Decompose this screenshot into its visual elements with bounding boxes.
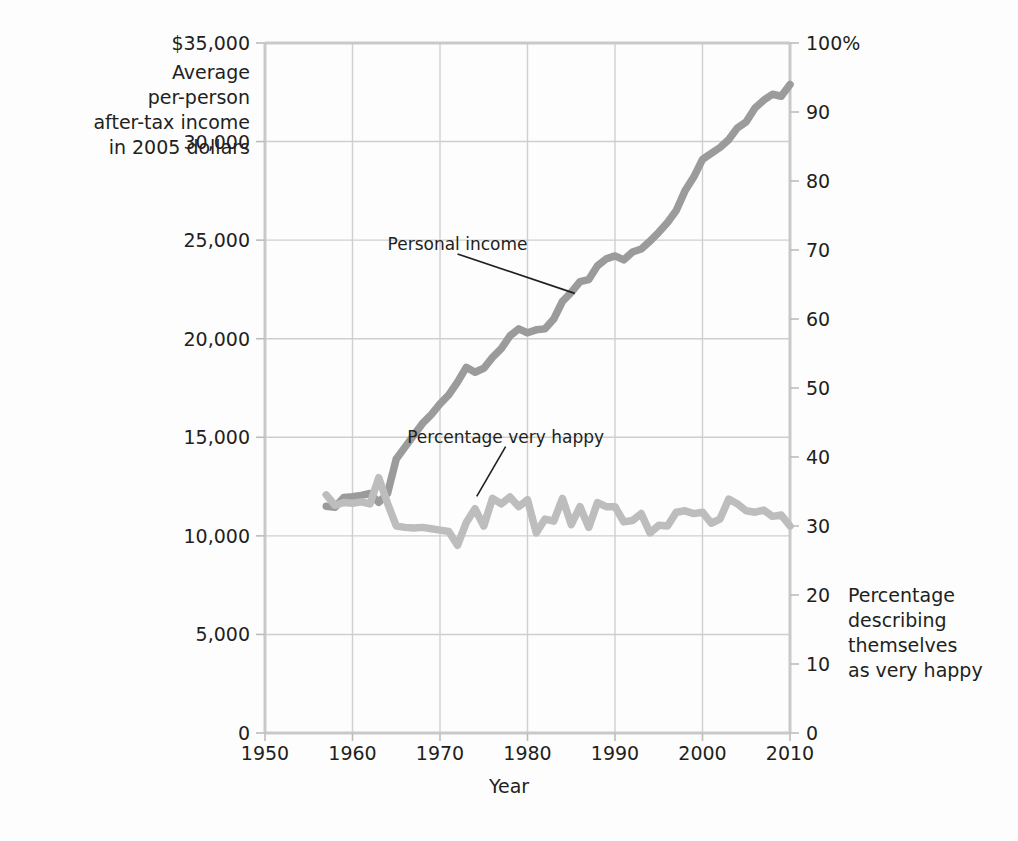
y-right-tick-label: 10 <box>806 653 896 675</box>
annotation-leader-line <box>458 254 575 293</box>
y-right-tick-label: 20 <box>806 584 896 606</box>
x-tick-label: 1980 <box>503 742 551 764</box>
y-left-tick-label: 5,000 <box>150 623 250 645</box>
y-right-tick-label: 0 <box>806 722 896 744</box>
x-axis-title: Year <box>0 775 1018 797</box>
y-right-tick-label: 30 <box>806 515 896 537</box>
annotation-leader-line <box>477 447 506 497</box>
x-tick-label: 1970 <box>416 742 464 764</box>
x-tick-label: 1950 <box>241 742 289 764</box>
y-left-tick-label: $35,000 <box>150 32 250 54</box>
y-right-tick-label: 50 <box>806 377 896 399</box>
y-left-tick-label: 0 <box>150 722 250 744</box>
series-annotation-label: Personal income <box>388 234 528 254</box>
y-right-tick-label: 40 <box>806 446 896 468</box>
y-right-tick-label: 60 <box>806 308 896 330</box>
y-left-tick-label: 30,000 <box>150 131 250 153</box>
y-right-tick-label: 80 <box>806 170 896 192</box>
y-left-tick-label: 25,000 <box>150 229 250 251</box>
x-tick-label: 2010 <box>766 742 814 764</box>
y-left-tick-label: 15,000 <box>150 426 250 448</box>
y-right-tick-label: 90 <box>806 101 896 123</box>
x-tick-label: 2000 <box>678 742 726 764</box>
y-right-tick-label: 100% <box>806 32 896 54</box>
x-tick-label: 1960 <box>328 742 376 764</box>
y-right-tick-label: 70 <box>806 239 896 261</box>
y-left-tick-label: 20,000 <box>150 328 250 350</box>
series-annotation-label: Percentage very happy <box>407 427 604 447</box>
y-left-tick-label: 10,000 <box>150 525 250 547</box>
chart-figure: Average per-person after-tax income in 2… <box>0 0 1018 841</box>
x-tick-label: 1990 <box>591 742 639 764</box>
